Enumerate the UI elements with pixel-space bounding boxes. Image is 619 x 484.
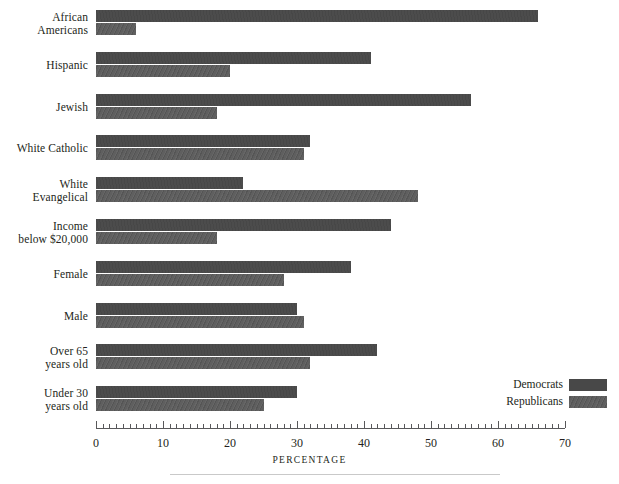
axis-minor-tick [344, 424, 345, 428]
category-label: WhiteEvangelical [0, 178, 88, 203]
footer-divider [170, 474, 500, 475]
bar-democrats [96, 52, 371, 64]
axis-minor-tick [264, 424, 265, 428]
axis-major-tick [498, 421, 499, 428]
x-axis-title: PERCENTAGE [0, 455, 619, 465]
category-label-line: Female [0, 268, 88, 281]
x-tick-label: 20 [224, 436, 236, 451]
axis-major-tick [565, 421, 566, 428]
chart-row: Incomebelow $20,000 [0, 217, 619, 247]
axis-minor-tick [424, 424, 425, 428]
axis-major-tick [230, 421, 231, 428]
bar-democrats [96, 10, 538, 22]
bar-group [96, 301, 576, 331]
axis-minor-tick [418, 424, 419, 428]
category-label: Over 65years old [0, 345, 88, 370]
bar-republicans [96, 316, 304, 328]
axis-minor-tick [438, 424, 439, 428]
category-label-line: Over 65 [0, 345, 88, 358]
axis-minor-tick [491, 424, 492, 428]
bar-republicans [96, 148, 304, 160]
axis-minor-tick [136, 424, 137, 428]
axis-minor-tick [156, 424, 157, 428]
axis-minor-tick [458, 424, 459, 428]
bar-republicans [96, 65, 230, 77]
x-axis-tick-labels: 010203040506070 [0, 436, 619, 452]
chart-row: Over 65years old [0, 342, 619, 372]
axis-minor-tick [250, 424, 251, 428]
bar-group [96, 92, 576, 122]
category-label-line: White Catholic [0, 142, 88, 155]
category-label: Under 30years old [0, 387, 88, 412]
axis-minor-tick [317, 424, 318, 428]
axis-minor-tick [310, 424, 311, 428]
category-label-line: below $20,000 [0, 232, 88, 245]
axis-minor-tick [357, 424, 358, 428]
category-label: White Catholic [0, 142, 88, 155]
legend-label: Democrats [513, 378, 563, 391]
axis-minor-tick [143, 424, 144, 428]
axis-minor-tick [116, 424, 117, 428]
chart-legend: DemocratsRepublicans [487, 378, 607, 414]
category-label-line: years old [0, 399, 88, 412]
bar-republicans [96, 274, 284, 286]
bar-chart: AfricanAmericansHispanicJewishWhite Cath… [0, 0, 619, 484]
bar-republicans [96, 190, 418, 202]
axis-minor-tick [170, 424, 171, 428]
category-label-line: Under 30 [0, 387, 88, 400]
x-tick-label: 10 [157, 436, 169, 451]
axis-minor-tick [243, 424, 244, 428]
category-label-line: White [0, 178, 88, 191]
axis-minor-tick [511, 424, 512, 428]
category-label-line: years old [0, 357, 88, 370]
x-tick-label: 40 [358, 436, 370, 451]
chart-row: Female [0, 259, 619, 289]
axis-major-tick [297, 421, 298, 428]
category-label: Hispanic [0, 59, 88, 72]
axis-minor-tick [371, 424, 372, 428]
axis-minor-tick [351, 424, 352, 428]
axis-minor-tick [203, 424, 204, 428]
bar-democrats [96, 386, 297, 398]
bar-group [96, 50, 576, 80]
category-label: Male [0, 309, 88, 322]
chart-row: Male [0, 301, 619, 331]
axis-minor-tick [237, 424, 238, 428]
axis-major-tick [431, 421, 432, 428]
axis-minor-tick [518, 424, 519, 428]
axis-minor-tick [210, 424, 211, 428]
axis-minor-tick [190, 424, 191, 428]
bar-democrats [96, 344, 377, 356]
axis-minor-tick [150, 424, 151, 428]
axis-line [96, 428, 565, 429]
axis-minor-tick [404, 424, 405, 428]
axis-minor-tick [257, 424, 258, 428]
x-tick-label: 60 [492, 436, 504, 451]
x-tick-label: 0 [93, 436, 99, 451]
chart-row: AfricanAmericans [0, 8, 619, 38]
bar-democrats [96, 303, 297, 315]
legend-label: Republicans [506, 395, 563, 408]
category-label-line: Income [0, 220, 88, 233]
category-label-line: African [0, 11, 88, 24]
axis-minor-tick [197, 424, 198, 428]
axis-minor-tick [277, 424, 278, 428]
category-label: AfricanAmericans [0, 11, 88, 36]
axis-minor-tick [270, 424, 271, 428]
bar-group [96, 342, 576, 372]
x-tick-label: 70 [559, 436, 571, 451]
bar-group [96, 175, 576, 205]
axis-minor-tick [223, 424, 224, 428]
axis-minor-tick [398, 424, 399, 428]
category-label: Female [0, 268, 88, 281]
category-label-line: Hispanic [0, 59, 88, 72]
category-label: Incomebelow $20,000 [0, 220, 88, 245]
axis-minor-tick [478, 424, 479, 428]
chart-row: Hispanic [0, 50, 619, 80]
chart-row: Jewish [0, 92, 619, 122]
axis-minor-tick [123, 424, 124, 428]
axis-minor-tick [384, 424, 385, 428]
axis-minor-tick [284, 424, 285, 428]
axis-minor-tick [217, 424, 218, 428]
bar-republicans [96, 357, 310, 369]
